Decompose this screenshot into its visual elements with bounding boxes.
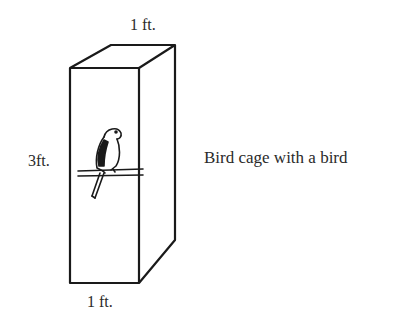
cage-box [70, 45, 175, 283]
bottom-width-label: 1 ft. [87, 293, 113, 311]
cage-top-face [70, 45, 175, 68]
height-label: 3ft. [28, 152, 50, 170]
cage-right-face [139, 45, 175, 283]
bird-icon [78, 129, 143, 198]
caption: Bird cage with a bird [204, 148, 348, 168]
top-width-label: 1 ft. [130, 16, 156, 34]
